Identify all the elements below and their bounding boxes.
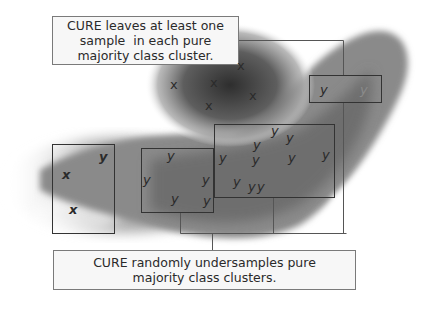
y-sample: y [171, 192, 179, 205]
y-sample: y [271, 124, 279, 137]
y-sample: y [320, 83, 328, 96]
y-sample: y [253, 138, 261, 151]
x-sample: x [69, 203, 77, 216]
x-sample: x [237, 59, 245, 72]
x-sample: x [170, 78, 178, 91]
y-sample: y [257, 180, 265, 193]
y-sample: y [252, 153, 260, 166]
bottom-annotation: CURE randomly undersamples pure majority… [53, 250, 356, 290]
y-sample: y [99, 150, 107, 163]
bottom-annotation-line-2: majority class clusters. [54, 270, 355, 285]
y-sample: y [219, 151, 227, 164]
y-sample: y [203, 194, 211, 207]
x-sample: x [249, 89, 257, 102]
top-connector [239, 41, 344, 76]
y-sample: y [286, 131, 294, 144]
bottom-connector [181, 213, 347, 234]
top-annotation: CURE leaves at least one sample in each … [52, 16, 239, 65]
top-annotation-line-2: sample in each pure [53, 33, 238, 48]
y-sample: y [248, 180, 256, 193]
x-sample: x [62, 168, 70, 181]
y-sample: y [288, 151, 296, 164]
cure-diagram: CURE leaves at least one sample in each … [0, 0, 423, 312]
y-sample: y [143, 173, 151, 186]
x-sample: x [205, 99, 213, 112]
y-sample: y [202, 173, 210, 186]
x-sample: x [210, 76, 218, 89]
top-annotation-line-1: CURE leaves at least one [53, 18, 238, 33]
top-annotation-line-3: majority class cluster. [53, 48, 238, 63]
y-sample: y [322, 148, 330, 161]
y-sample: y [360, 83, 368, 96]
bottom-annotation-line-1: CURE randomly undersamples pure [54, 255, 355, 270]
y-sample: y [233, 175, 241, 188]
y-sample: y [167, 149, 175, 162]
